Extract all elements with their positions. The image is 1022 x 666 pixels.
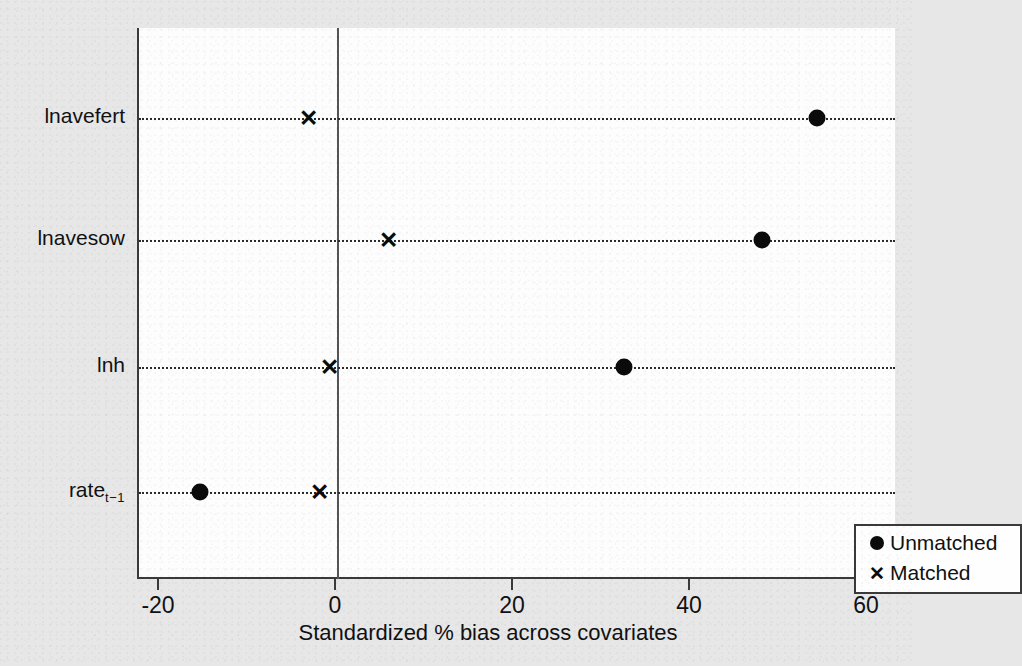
- y-axis-label-subscript: t−1: [105, 490, 125, 505]
- reference-line-lnavesow: [139, 240, 895, 242]
- x-tick-label-20: 20: [499, 592, 525, 619]
- legend-item-unmatched: Unmatched: [864, 529, 997, 557]
- legend-label-unmatched: Unmatched: [890, 531, 997, 555]
- datapoint-unmatched-lnavesow: [753, 232, 770, 249]
- datapoint-unmatched-lnh: [615, 359, 632, 376]
- x-axis-title: Standardized % bias across covariates: [0, 620, 912, 646]
- filled-circle-icon: [864, 536, 890, 550]
- x-tick-label-40: 40: [676, 592, 702, 619]
- x-tick-label-0: 0: [329, 592, 342, 619]
- plot-area: ✕✕✕✕ Unmatched ✕ Matched: [137, 28, 895, 579]
- reference-line-lnavefert: [139, 118, 895, 120]
- legend-label-matched: Matched: [890, 561, 971, 585]
- x-marker-icon: ✕: [864, 564, 890, 583]
- zero-reference-line: [337, 28, 339, 579]
- x-tick-label--20: -20: [141, 592, 174, 619]
- y-axis-label-lnh: lnh: [0, 353, 125, 377]
- datapoint-matched-rate: ✕: [310, 481, 329, 504]
- y-axis-label-lnavefert: lnavefert: [0, 104, 125, 128]
- x-tick--20: [157, 579, 159, 590]
- datapoint-matched-lnavesow: ✕: [379, 229, 398, 252]
- y-axis-label-lnavesow: lnavesow: [0, 226, 125, 250]
- datapoint-matched-lnh: ✕: [320, 356, 339, 379]
- x-tick-0: [334, 579, 336, 590]
- x-tick-label-60: 60: [853, 592, 879, 619]
- legend-item-matched: ✕ Matched: [864, 559, 971, 587]
- datapoint-matched-lnavefert: ✕: [299, 107, 318, 130]
- y-axis-label-rate: ratet−1: [0, 478, 125, 505]
- reference-line-lnh: [139, 367, 895, 369]
- legend: Unmatched ✕ Matched: [854, 524, 1022, 594]
- datapoint-unmatched-lnavefert: [808, 110, 825, 127]
- x-tick-40: [688, 579, 690, 590]
- reference-line-rate: [139, 492, 895, 494]
- datapoint-unmatched-rate: [191, 484, 208, 501]
- x-tick-20: [511, 579, 513, 590]
